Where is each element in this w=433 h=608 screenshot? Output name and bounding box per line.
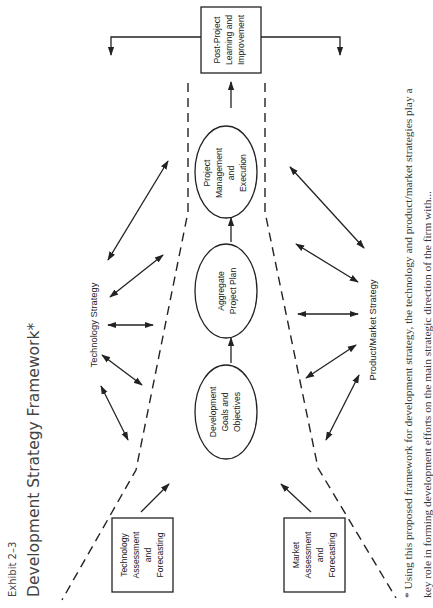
development-strategy-diagram: Exhibit 2–3 Development Strategy Framewo…: [0, 0, 433, 608]
tech-assess-line1: Technology: [119, 533, 129, 577]
project-management-node: Project Management and Execution: [195, 126, 257, 218]
development-goals-node: Development Goals and Objectives: [195, 365, 257, 459]
market-double-arrow-2: [296, 244, 358, 282]
pm-line2: Management: [214, 147, 224, 198]
post-project-node: Post-Project Learning and Improvement: [201, 7, 261, 73]
post-project-line1: Post-Project: [212, 16, 222, 63]
tech-assess-line4: Forecasting: [155, 532, 165, 577]
arrow-tech-to-goals: [141, 484, 169, 512]
exhibit-label: Exhibit 2–3: [7, 542, 18, 597]
aggregate-line2: Project Plan: [228, 268, 238, 315]
goals-line2: Goals and: [220, 392, 230, 431]
exhibit-heading: Exhibit 2–3 Development Strategy Framewo…: [7, 323, 43, 597]
post-project-line2: Learning and: [224, 15, 234, 65]
market-double-arrow-1: [290, 167, 364, 248]
market-assess-line4: Forecasting: [327, 532, 337, 577]
tech-double-arrow-4: [102, 355, 142, 385]
technology-strategy-arrows: [101, 161, 168, 440]
goals-line1: Development: [208, 386, 218, 437]
pm-line4: Execution: [238, 154, 248, 192]
market-double-arrow-5: [326, 375, 359, 440]
market-assess-line2: Assessment: [303, 531, 313, 578]
tech-assess-line2: Assessment: [131, 531, 141, 578]
feedback-arrow-technology: [111, 37, 201, 55]
aggregate-plan-node: Aggregate Project Plan: [195, 244, 257, 338]
post-project-line3: Improvement: [236, 14, 246, 65]
tech-double-arrow-2: [110, 255, 163, 297]
feedback-arrow-market: [261, 37, 340, 55]
aggregate-plan-ellipse: [195, 244, 257, 338]
footnote-line1: * Using this proposed framework for deve…: [402, 89, 414, 598]
footnote-line2: key role in forming development efforts …: [421, 191, 433, 598]
market-double-arrow-4: [306, 345, 356, 378]
arrow-market-to-goals: [281, 484, 311, 512]
tech-double-arrow-5: [101, 386, 128, 440]
tech-assess-line3: and: [143, 548, 153, 563]
aggregate-line1: Aggregate: [216, 271, 226, 311]
technology-strategy-label: Technology Strategy: [88, 282, 99, 367]
market-assess-line1: Market: [291, 541, 301, 568]
market-assess-line3: and: [315, 548, 325, 563]
pm-line1: Project: [202, 159, 212, 186]
pm-line3: and: [226, 166, 236, 181]
product-market-strategy-label: Product/Market Strategy: [367, 279, 378, 380]
technology-assessment-node: Technology Assessment and Forecasting: [112, 518, 173, 592]
market-assessment-node: Market Assessment and Forecasting: [284, 518, 345, 592]
exhibit-title: Development Strategy Framework*: [25, 323, 43, 597]
market-strategy-arrows: [290, 167, 364, 440]
goals-line3: Objectives: [232, 392, 242, 432]
footnote: * Using this proposed framework for deve…: [402, 89, 433, 598]
tech-double-arrow-1: [108, 161, 168, 260]
